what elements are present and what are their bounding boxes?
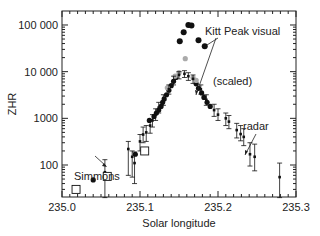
annotation-radar: radar — [243, 120, 269, 132]
y-tick-label: 1000 — [34, 112, 58, 124]
radar-point — [187, 75, 190, 78]
y-tick-label: 100 000 — [18, 19, 58, 31]
radar-point — [228, 120, 231, 123]
arrow-kitt-peak — [207, 38, 218, 45]
simmons-point — [72, 185, 80, 193]
radar-point — [133, 162, 136, 165]
x-axis-title: Solar longitude — [142, 217, 215, 229]
annotation-simmons: Simmons — [74, 170, 120, 182]
radar-point — [253, 155, 256, 158]
radar-point — [172, 79, 175, 82]
radar-point — [242, 136, 245, 139]
radar-point — [192, 78, 195, 81]
radar-point — [213, 109, 216, 112]
visual-point — [183, 56, 188, 61]
y-tick-label: 10 000 — [24, 66, 58, 78]
radar-point — [154, 113, 157, 116]
x-tick-label: 235.1 — [126, 201, 154, 213]
radar-point — [278, 176, 281, 179]
radar-point — [225, 117, 228, 120]
radar-point — [200, 88, 203, 91]
radar-point — [249, 153, 252, 156]
radar-point — [131, 155, 134, 158]
kitt-peak-point — [196, 37, 202, 43]
simmons-point — [141, 147, 149, 155]
annotation-scaled: (scaled) — [213, 75, 252, 87]
radar-point — [217, 113, 220, 116]
radar-point — [235, 129, 238, 132]
y-axis-title: ZHR — [6, 93, 18, 116]
radar-point — [183, 72, 186, 75]
kitt-peak-point — [177, 38, 183, 44]
kitt-peak-point — [181, 29, 187, 35]
radar-point — [205, 98, 208, 101]
visual-point — [199, 90, 204, 95]
radar-point — [168, 88, 171, 91]
radar-point — [162, 98, 165, 101]
zhr-chart: 235.0235.1235.2235.3100100010 000100 000… — [0, 0, 320, 236]
annotation-kitt-peak: Kitt Peak visual — [205, 25, 280, 37]
x-tick-label: 235.3 — [282, 201, 310, 213]
y-tick-label: 100 — [40, 159, 58, 171]
kitt-peak-point — [188, 23, 194, 29]
radar-point — [142, 133, 145, 136]
radar-point — [127, 148, 130, 151]
radar-point — [149, 124, 152, 127]
radar-point — [178, 74, 181, 77]
radar-point — [157, 106, 160, 109]
x-tick-label: 235.2 — [204, 201, 232, 213]
kitt-peak-point — [202, 43, 208, 49]
radar-point — [239, 133, 242, 136]
x-tick-label: 235.0 — [48, 201, 76, 213]
radar-point — [145, 131, 148, 134]
